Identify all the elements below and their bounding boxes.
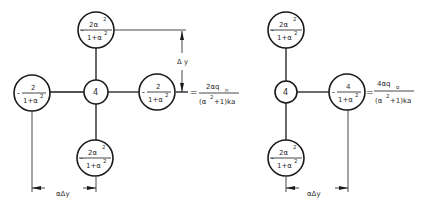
svg-text:2: 2 bbox=[293, 144, 297, 150]
svg-text:2: 2 bbox=[104, 30, 108, 36]
svg-text:2α: 2α bbox=[279, 21, 288, 29]
svg-text:-: - bbox=[271, 154, 274, 163]
svg-text:αΔy: αΔy bbox=[307, 190, 321, 198]
svg-text:-: - bbox=[17, 89, 20, 98]
svg-text:o: o bbox=[396, 84, 400, 90]
node-top: - 2α 2 1+α 2 bbox=[78, 12, 114, 48]
svg-text:+1)ka: +1)ka bbox=[214, 98, 235, 106]
svg-text:1+α: 1+α bbox=[148, 96, 163, 104]
node-left: - 2 1+α 2 bbox=[14, 75, 50, 111]
svg-text:1+α: 1+α bbox=[338, 96, 353, 104]
svg-text:n: n bbox=[225, 87, 229, 93]
svg-text:2: 2 bbox=[294, 30, 298, 36]
svg-text:2αq: 2αq bbox=[206, 83, 220, 91]
svg-text:-: - bbox=[271, 26, 274, 35]
svg-text:2: 2 bbox=[165, 92, 169, 98]
svg-text:-: - bbox=[332, 88, 335, 97]
node-top: - 2α 2 1+α 2 bbox=[268, 12, 304, 48]
left-stencil: - 2α 2 1+α 2 - 2 1+α 2 4 - 2 1+α bbox=[14, 12, 239, 198]
node-center: 4 bbox=[84, 80, 108, 104]
svg-text:4αq: 4αq bbox=[377, 80, 391, 88]
svg-text:αΔy: αΔy bbox=[56, 190, 70, 198]
svg-text:2: 2 bbox=[40, 93, 44, 99]
svg-text:1+α: 1+α bbox=[87, 34, 102, 42]
svg-text:2: 2 bbox=[156, 83, 160, 91]
right-stencil: - 2α 2 1+α 2 4 - 4 1+α 2 - 2α 2 1+α bbox=[268, 12, 414, 198]
svg-text:1+α: 1+α bbox=[277, 162, 292, 170]
node-right: - 4 1+α 2 bbox=[329, 74, 365, 110]
svg-text:=: = bbox=[190, 87, 198, 97]
svg-text:-: - bbox=[142, 88, 145, 97]
svg-text:2: 2 bbox=[210, 94, 214, 100]
svg-text:2α: 2α bbox=[279, 149, 288, 157]
svg-text:4: 4 bbox=[93, 88, 98, 97]
vertical-dimension: Δ y bbox=[176, 31, 188, 92]
node-bottom: - 2α 2 1+α 2 bbox=[77, 140, 113, 176]
finite-difference-stencil-diagram: - 2α 2 1+α 2 - 2 1+α 2 4 - 2 1+α bbox=[0, 0, 433, 210]
svg-text:2: 2 bbox=[293, 16, 297, 22]
svg-text:+1)ka: +1)ka bbox=[390, 97, 411, 105]
svg-text:Δ y: Δ y bbox=[177, 58, 188, 66]
svg-text:=: = bbox=[366, 87, 374, 97]
svg-text:-: - bbox=[80, 154, 83, 163]
svg-text:2: 2 bbox=[31, 84, 35, 92]
equation-left: = 2αq n (α 2 +1)ka bbox=[190, 83, 239, 106]
svg-text:2: 2 bbox=[103, 158, 107, 164]
svg-text:2: 2 bbox=[355, 92, 359, 98]
svg-text:2: 2 bbox=[386, 93, 390, 99]
svg-text:4: 4 bbox=[346, 83, 351, 91]
equation-right: = 4αq o (α 2 +1)ka bbox=[366, 80, 414, 105]
node-bottom: - 2α 2 1+α 2 bbox=[268, 140, 304, 176]
svg-text:2α: 2α bbox=[88, 149, 97, 157]
svg-text:(α: (α bbox=[375, 97, 383, 105]
svg-text:2α: 2α bbox=[89, 21, 98, 29]
svg-text:1+α: 1+α bbox=[277, 34, 292, 42]
svg-text:(α: (α bbox=[199, 98, 207, 106]
svg-text:2: 2 bbox=[103, 16, 107, 22]
node-center: 4 bbox=[275, 81, 297, 103]
svg-text:-: - bbox=[81, 26, 84, 35]
svg-text:4: 4 bbox=[283, 88, 288, 97]
node-right: - 2 1+α 2 bbox=[139, 74, 175, 110]
svg-text:2: 2 bbox=[102, 144, 106, 150]
svg-text:1+α: 1+α bbox=[23, 97, 38, 105]
svg-text:1+α: 1+α bbox=[86, 162, 101, 170]
svg-text:2: 2 bbox=[294, 158, 298, 164]
